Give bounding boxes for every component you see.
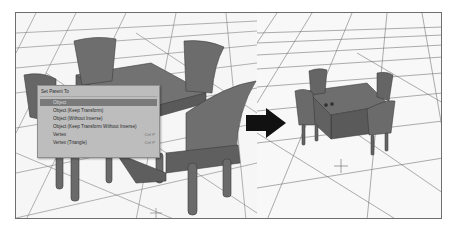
right-arrow-icon — [244, 106, 288, 140]
menu-item-label: Vertex — [53, 132, 66, 137]
menu-item-object-keep-transform[interactable]: Object (Keep Transform) — [40, 107, 157, 114]
menu-item-shortcut: Ctrl P — [145, 139, 155, 146]
menu-item-object-keep-transform-without-inverse[interactable]: Object (Keep Transform Without Inverse) — [40, 123, 157, 130]
menu-item-label: Object (Without Inverse) — [53, 116, 103, 121]
menu-item-shortcut: Ctrl P — [145, 131, 155, 138]
menu-item-vertex[interactable]: Vertex Ctrl P — [40, 131, 157, 138]
menu-item-label: Vertex (Triangle) — [53, 140, 87, 145]
menu-item-label: Object (Keep Transform) — [53, 108, 103, 113]
menu-item-object[interactable]: Object — [40, 99, 157, 106]
left-viewport[interactable]: Set Parent To Object Object (Keep Transf… — [16, 13, 257, 218]
menu-item-object-without-inverse[interactable]: Object (Without Inverse) — [40, 115, 157, 122]
figure-frame: Set Parent To Object Object (Keep Transf… — [15, 12, 442, 219]
menu-item-vertex-triangle[interactable]: Vertex (Triangle) Ctrl P — [40, 139, 157, 146]
menu-item-label: Object (Keep Transform Without Inverse) — [53, 124, 136, 129]
menu-separator — [40, 96, 157, 97]
menu-item-label: Object — [53, 100, 66, 105]
set-parent-menu: Set Parent To Object Object (Keep Transf… — [37, 85, 160, 158]
menu-title: Set Parent To — [41, 89, 69, 94]
